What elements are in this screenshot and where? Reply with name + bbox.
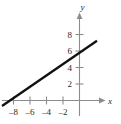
y-tick-label-8: 8 — [68, 30, 73, 40]
x-axis-label: x — [107, 96, 112, 106]
x-tick-label--4: –4 — [41, 107, 52, 117]
x-tick-label--6: –6 — [25, 107, 36, 117]
y-tick-label-4: 4 — [68, 63, 73, 73]
x-tick-label--8: –8 — [8, 107, 19, 117]
plotted-line — [2, 41, 97, 106]
y-axis-arrowhead — [77, 13, 83, 20]
coordinate-plane-svg: –8 –6 –4 –2 2 4 6 8 x y — [0, 0, 121, 124]
graph-figure: –8 –6 –4 –2 2 4 6 8 x y — [0, 0, 121, 124]
x-axis-arrowhead — [99, 98, 106, 104]
x-tick-label--2: –2 — [58, 107, 68, 117]
y-tick-label-2: 2 — [68, 79, 73, 89]
y-tick-label-6: 6 — [68, 46, 73, 56]
y-axis-label: y — [80, 2, 85, 12]
